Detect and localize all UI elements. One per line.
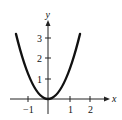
x-axis-arrow-icon	[104, 97, 110, 102]
xtick-label-1: 1	[68, 104, 73, 115]
xtick-label-2: 2	[88, 104, 93, 115]
x-axis-label: x	[111, 93, 117, 104]
ytick-label-3: 3	[37, 33, 42, 44]
y-axis-arrow-icon	[46, 20, 51, 26]
xtick-label-neg1: −1	[23, 104, 34, 115]
ytick-label-2: 2	[37, 53, 42, 64]
parabola-chart: x y −1 1 2 1 2 3	[0, 0, 122, 120]
ytick-label-1: 1	[37, 74, 42, 85]
y-axis-label: y	[45, 9, 51, 20]
